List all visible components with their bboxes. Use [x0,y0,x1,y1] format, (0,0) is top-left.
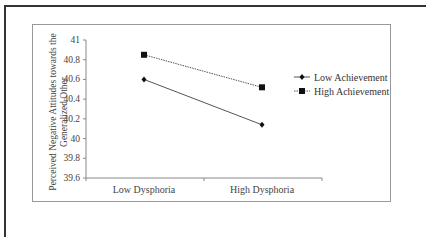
x-ticks: Low DysphoriaHigh Dysphoria [86,178,322,195]
y-tick-label: 39.6 [63,173,80,183]
diamond-marker-icon [300,74,305,80]
legend-label: Low Achievement [314,72,388,83]
series [141,52,265,128]
y-tick-label: 40 [71,134,81,144]
square-marker-icon [259,84,265,90]
diamond-marker-icon [260,122,265,128]
series-low-achievement [142,76,265,127]
legend-label: High Achievement [314,86,389,97]
y-tick-label: 40.4 [63,94,80,104]
axes [86,40,322,178]
y-tick-label: 39.8 [63,153,80,163]
legend: Low AchievementHigh Achievement [294,72,389,97]
series-high-achievement [141,52,265,91]
y-tick-label: 40.8 [63,55,80,65]
x-category-label: High Dysphoria [230,184,295,195]
square-marker-icon [141,52,147,58]
diamond-marker-icon [142,76,147,82]
y-tick-label: 40.6 [63,74,80,84]
y-tick-label: 40.2 [63,114,80,124]
square-marker-icon [299,88,305,94]
legend-item: High Achievement [294,86,389,97]
y-ticks: 4140.840.640.440.24039.839.6 [63,35,86,183]
legend-item: Low Achievement [294,72,388,83]
y-tick-label: 41 [71,35,81,45]
x-category-label: Low Dysphoria [113,184,176,195]
